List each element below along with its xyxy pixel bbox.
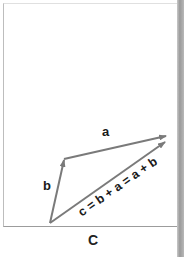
- vector-c-equation-label: c = b + a = a + b: [76, 154, 161, 219]
- vector-diagram: a b c = b + a = a + b: [0, 0, 184, 257]
- vector-b-label: b: [43, 178, 51, 193]
- vector-a-label: a: [102, 124, 110, 139]
- figure-page: a b c = b + a = a + b C: [0, 0, 184, 257]
- figure-caption: C: [84, 232, 102, 248]
- vector-c-arrow: [50, 142, 165, 223]
